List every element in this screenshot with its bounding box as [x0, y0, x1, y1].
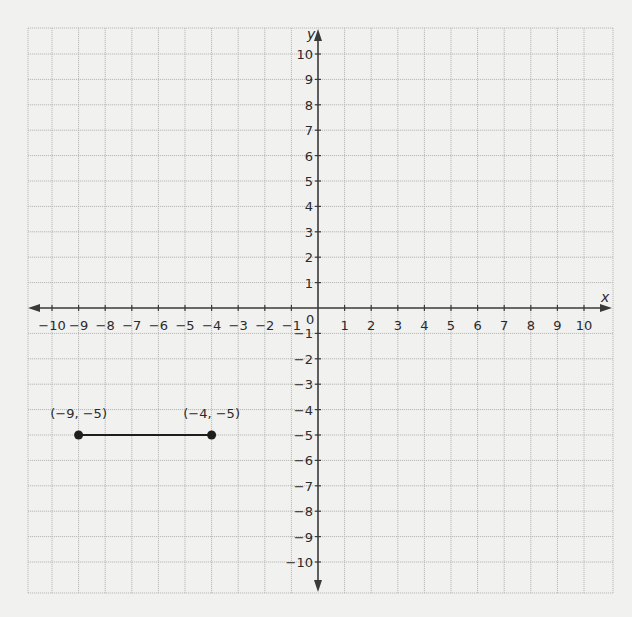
- x-tick-label: 5: [447, 318, 455, 333]
- x-tick-label: 8: [527, 318, 535, 333]
- y-tick-label: 10: [296, 47, 313, 62]
- y-axis-label: y: [306, 26, 316, 42]
- x-tick-label: 10: [576, 318, 593, 333]
- y-tick-label: −9: [294, 530, 313, 545]
- x-tick-label: −8: [96, 318, 115, 333]
- coordinate-plane: xy0−10−9−8−7−6−5−4−3−2−112345678910−10−9…: [0, 0, 632, 617]
- x-axis-left-arrow-icon: [28, 304, 40, 312]
- y-tick-label: −2: [294, 352, 313, 367]
- x-axis-right-arrow-icon: [600, 304, 612, 312]
- x-tick-label: 7: [500, 318, 508, 333]
- origin-label: 0: [306, 312, 314, 327]
- x-tick-label: −5: [175, 318, 194, 333]
- y-tick-label: 4: [305, 199, 313, 214]
- point-label: (−9, −5): [50, 406, 107, 421]
- y-tick-label: −8: [294, 504, 313, 519]
- x-tick-label: −6: [149, 318, 168, 333]
- x-tick-label: 1: [340, 318, 348, 333]
- x-tick-label: 6: [473, 318, 481, 333]
- y-tick-label: 8: [305, 98, 313, 113]
- data-point: [74, 431, 83, 440]
- x-tick-label: −3: [229, 318, 248, 333]
- y-tick-label: 9: [305, 72, 313, 87]
- tick-labels: xy0−10−9−8−7−6−5−4−3−2−112345678910−10−9…: [38, 26, 610, 570]
- y-tick-label: 6: [305, 149, 313, 164]
- y-axis-down-arrow-icon: [314, 580, 322, 592]
- y-tick-label: −3: [294, 377, 313, 392]
- axes: [28, 29, 612, 592]
- x-tick-label: 9: [553, 318, 561, 333]
- x-tick-label: −9: [69, 318, 88, 333]
- x-tick-label: 3: [394, 318, 402, 333]
- y-tick-label: 3: [305, 225, 313, 240]
- x-axis-label: x: [600, 289, 610, 305]
- x-tick-label: 4: [420, 318, 428, 333]
- y-tick-label: 1: [305, 276, 313, 291]
- y-tick-label: 7: [305, 123, 313, 138]
- y-tick-label: −1: [294, 326, 313, 341]
- x-tick-label: −10: [38, 318, 65, 333]
- x-tick-label: −2: [255, 318, 274, 333]
- y-tick-label: −5: [294, 428, 313, 443]
- point-label: (−4, −5): [183, 406, 240, 421]
- y-tick-label: −10: [286, 555, 313, 570]
- y-tick-label: −4: [294, 403, 313, 418]
- data-point: [207, 431, 216, 440]
- x-tick-label: 2: [367, 318, 375, 333]
- y-tick-label: −7: [294, 479, 313, 494]
- x-tick-label: −4: [202, 318, 221, 333]
- y-tick-label: 5: [305, 174, 313, 189]
- grid-lines: [28, 28, 613, 593]
- y-tick-label: 2: [305, 250, 313, 265]
- x-tick-label: −7: [122, 318, 141, 333]
- y-tick-label: −6: [294, 453, 313, 468]
